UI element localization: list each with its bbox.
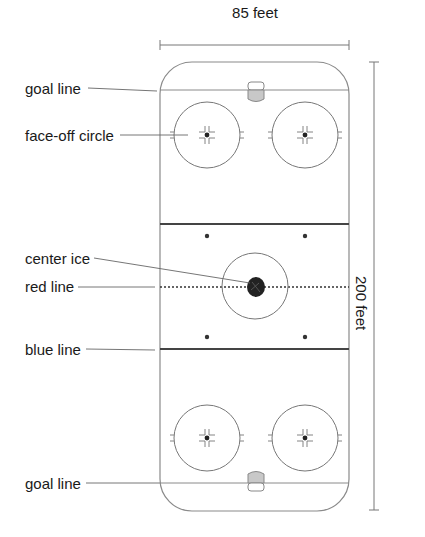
faceoff-circle-bottom-right	[268, 405, 342, 471]
leader-lines	[78, 88, 250, 483]
width-label: 85 feet	[160, 4, 350, 21]
faceoff-circle-label: face-off circle	[25, 128, 114, 143]
goal-crease-top	[248, 82, 264, 102]
red-line-label: red line	[25, 279, 74, 294]
goal-crease-bottom	[248, 472, 264, 492]
faceoff-circle-top-right	[268, 102, 342, 168]
goal-line-top-label: goal line	[25, 81, 81, 96]
faceoff-circle-bottom-left	[170, 405, 244, 471]
length-dimension	[369, 62, 379, 510]
center-ice-label: center ice	[25, 251, 90, 266]
length-label: 200 feet	[353, 276, 370, 330]
goal-line-bottom-label: goal line	[25, 476, 81, 491]
width-dimension	[160, 40, 349, 50]
center-ice-logo	[247, 277, 265, 297]
blue-line-label: blue line	[25, 342, 81, 357]
